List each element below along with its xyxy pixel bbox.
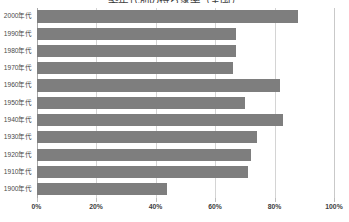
bar-1960年代 [37, 79, 281, 91]
bar-row [37, 60, 335, 77]
y-axis-label-1900年代: 1900年代 [4, 185, 33, 193]
y-axis-label-1990年代: 1990年代 [4, 30, 33, 38]
bar-row [37, 181, 335, 198]
bar-1920年代 [37, 149, 251, 161]
x-axis-tick-labels: 0%20%40%60%80%100% [0, 203, 349, 217]
bar-1900年代 [37, 183, 168, 195]
bar-row [37, 25, 335, 42]
bar-chart: 築年代別の持ち家率（全国） 2000年代1990年代1980年代1970年代19… [0, 0, 349, 222]
bar-2000年代 [37, 10, 299, 22]
bar-1980年代 [37, 45, 236, 57]
gridline-100 [334, 8, 335, 198]
x-axis-label-20pct: 20% [89, 203, 103, 210]
y-axis-label-1960年代: 1960年代 [4, 81, 33, 89]
x-axis-tick-60 [215, 198, 216, 202]
x-axis-tick-20 [96, 198, 97, 202]
x-axis-label-40pct: 40% [149, 203, 163, 210]
x-axis-label-0pct: 0% [32, 203, 42, 210]
bar-1950年代 [37, 97, 245, 109]
bar-1940年代 [37, 114, 284, 126]
bar-row [37, 8, 335, 25]
x-axis-tick-100 [334, 198, 335, 202]
bar-row [37, 43, 335, 60]
x-axis-label-60pct: 60% [208, 203, 222, 210]
y-axis-label-1920年代: 1920年代 [4, 151, 33, 159]
bar-row [37, 77, 335, 94]
x-axis-label-100pct: 100% [325, 203, 342, 210]
bar-1930年代 [37, 131, 257, 143]
bar-row [37, 129, 335, 146]
chart-title: 築年代別の持ち家率（全国） [0, 0, 349, 3]
y-axis-label-1910年代: 1910年代 [4, 168, 33, 176]
x-axis-tick-40 [156, 198, 157, 202]
x-axis-label-80pct: 80% [268, 203, 282, 210]
bar-row [37, 163, 335, 180]
bar-1990年代 [37, 28, 236, 40]
y-axis-label-2000年代: 2000年代 [4, 12, 33, 20]
y-axis-category-labels: 2000年代1990年代1980年代1970年代1960年代1950年代1940… [0, 8, 37, 198]
bar-1910年代 [37, 166, 248, 178]
x-axis-tick-0 [37, 198, 38, 202]
bar-1970年代 [37, 62, 233, 74]
y-axis-label-1980年代: 1980年代 [4, 47, 33, 55]
x-axis-tick-80 [275, 198, 276, 202]
bar-row [37, 146, 335, 163]
y-axis-label-1950年代: 1950年代 [4, 99, 33, 107]
y-axis-label-1930年代: 1930年代 [4, 133, 33, 141]
y-axis-label-1940年代: 1940年代 [4, 116, 33, 124]
bar-row [37, 112, 335, 129]
y-axis-label-1970年代: 1970年代 [4, 64, 33, 72]
bar-row [37, 94, 335, 111]
plot-area [37, 8, 335, 198]
